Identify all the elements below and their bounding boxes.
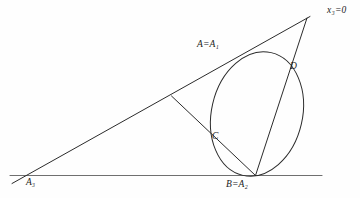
line-x3-diagonal <box>12 17 310 184</box>
diagram-canvas <box>0 0 360 198</box>
label-point-d: D <box>290 62 297 72</box>
label-vertex-a3: A₃ <box>26 178 35 188</box>
label-vertex-a3-text: A₃ <box>26 177 35 187</box>
label-vertex-a-text: A=A₁ <box>197 39 219 49</box>
label-point-c-text: C <box>212 131 218 141</box>
inscribed-ellipse <box>198 42 315 185</box>
label-point-c: C <box>212 132 218 142</box>
label-line-x3-text: x₃=0 <box>327 5 346 15</box>
label-point-d-text: D <box>290 61 297 71</box>
label-vertex-b: B=A₂ <box>226 180 248 190</box>
label-vertex-a: A=A₁ <box>197 40 219 50</box>
label-vertex-b-text: B=A₂ <box>226 179 248 189</box>
cevian-apex-to-b <box>256 18 308 176</box>
geometric-figure: A=A₁ B=A₂ A₃ C D x₃=0 <box>0 0 360 198</box>
label-line-x3: x₃=0 <box>327 6 346 16</box>
